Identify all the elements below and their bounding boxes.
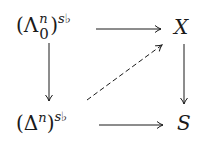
open-paren: ( [16, 13, 24, 37]
label-s: S [177, 111, 191, 135]
arrow-dashed-diagonal [87, 45, 162, 100]
node-top-left: (Λn0)s♭ [16, 15, 71, 35]
subscript-zero: 0 [39, 27, 49, 42]
close-paren: ) [50, 13, 58, 37]
delta-symbol: Δ [24, 111, 38, 135]
superscript-n: n [38, 110, 46, 125]
node-bottom-right: S [177, 113, 191, 133]
superscript-s-flat: s♭ [58, 11, 71, 26]
node-top-right: X [174, 17, 188, 37]
commutative-diagram: (Λn0)s♭ X (Δn)s♭ S [0, 0, 204, 141]
label-x: X [174, 15, 188, 39]
node-bottom-left: (Δn)s♭ [16, 113, 67, 133]
superscript-s-flat: s♭ [54, 109, 67, 124]
superscript-n: n [39, 12, 47, 25]
open-paren: ( [16, 111, 24, 135]
lambda-symbol: Λ [24, 13, 38, 37]
